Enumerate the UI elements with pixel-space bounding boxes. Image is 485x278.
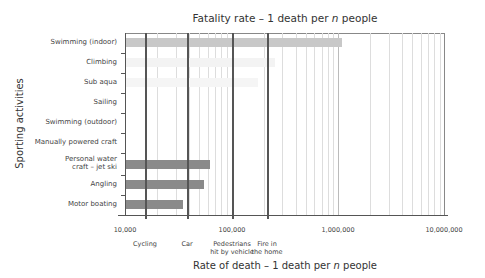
category-label: Sub aqua (84, 78, 117, 86)
gridline (402, 33, 403, 215)
gridline (412, 33, 413, 215)
y-axis (125, 33, 126, 215)
ref-line-cycling (145, 33, 147, 219)
x-tick-label: 1,000,000 (321, 226, 354, 234)
y-tick (121, 113, 125, 114)
gridline (322, 33, 323, 215)
category-label: Swimming (indoor) (50, 38, 117, 46)
bar-swimming-indoor (126, 38, 342, 47)
ref-line-fire (267, 33, 269, 219)
gridline (282, 33, 283, 215)
ref-label-car: Car (181, 240, 192, 248)
category-label: Angling (91, 180, 117, 188)
y-tick (121, 93, 125, 94)
ref-label-fire: Fire inthe home (251, 240, 282, 256)
gridline (389, 33, 390, 215)
x-tick-label: 100,000 (219, 226, 246, 234)
y-tick (121, 73, 125, 74)
category-label: Manually powered craft (35, 138, 117, 146)
gridline (314, 33, 315, 215)
category-label: Sailing (94, 98, 117, 106)
ref-label-pedestrians: Pedestrianshit by vehicle (210, 240, 254, 256)
y-tick (121, 175, 125, 176)
gridline (328, 33, 329, 215)
bar-climbing (126, 58, 275, 67)
category-label: Motor boating (68, 200, 117, 208)
bar-motor-boating (126, 200, 183, 209)
x-tick-label: 10,000,000 (425, 226, 462, 234)
gridline (440, 33, 441, 215)
x-axis-title: Rate of death – 1 death per n people (125, 260, 445, 271)
gridline (306, 33, 307, 215)
gridline (370, 33, 371, 215)
category-label: Swimming (outdoor) (45, 118, 117, 126)
ref-line-pedestrians (232, 33, 234, 219)
y-tick (121, 53, 125, 54)
bar-jet-ski (126, 160, 210, 169)
category-label: Personal watercraft – jet ski (65, 155, 117, 171)
gridline (333, 33, 334, 215)
y-axis-title: Sporting activities (14, 69, 25, 179)
y-tick (121, 153, 125, 154)
ref-label-cycling: Cycling (133, 240, 157, 248)
gridline (428, 33, 429, 215)
gridline (421, 33, 422, 215)
gridline-major (338, 33, 339, 215)
y-tick (121, 133, 125, 134)
gridline (434, 33, 435, 215)
ref-line-car (187, 33, 189, 219)
chart-title: Fatality rate – 1 death per n people (125, 12, 445, 24)
gridline (296, 33, 297, 215)
bar-angling (126, 180, 204, 189)
x-tick-label: 10,000 (114, 226, 137, 234)
category-label: Climbing (86, 58, 117, 66)
y-tick (121, 195, 125, 196)
x-axis (118, 215, 448, 216)
